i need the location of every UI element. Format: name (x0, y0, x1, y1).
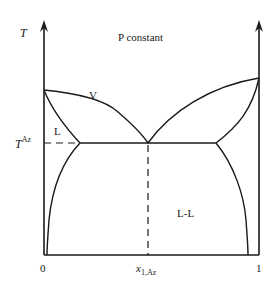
liquid-region-label: L (54, 125, 61, 137)
y-axis-label: T (20, 26, 28, 40)
vapor-region-label: V (89, 89, 97, 101)
dew-curve-right (148, 78, 259, 143)
x-tick-0: 0 (40, 262, 46, 274)
x-tick-1: 1 (256, 262, 262, 274)
azeotrope-temp-label: TAz (15, 135, 31, 151)
bubble-curve-left (44, 90, 80, 143)
solubility-curve-left (47, 143, 80, 255)
diagram-title: P constant (118, 31, 163, 43)
phase-diagram: T P constant V L L-L TAz 0 1 x1,Az (0, 0, 277, 290)
x-azeotrope-label: x1,Az (135, 262, 157, 277)
solubility-curve-right (216, 143, 248, 255)
liquid-liquid-region-label: L-L (177, 207, 194, 219)
